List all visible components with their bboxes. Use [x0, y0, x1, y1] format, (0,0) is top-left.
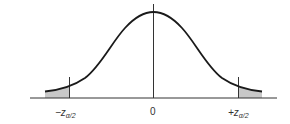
left-critical-label: −zα/2 — [55, 107, 76, 119]
right-critical-label: +zα/2 — [228, 107, 249, 119]
center-label: 0 — [150, 106, 156, 117]
normal-distribution-diagram: −zα/2 0 +zα/2 — [0, 0, 290, 124]
